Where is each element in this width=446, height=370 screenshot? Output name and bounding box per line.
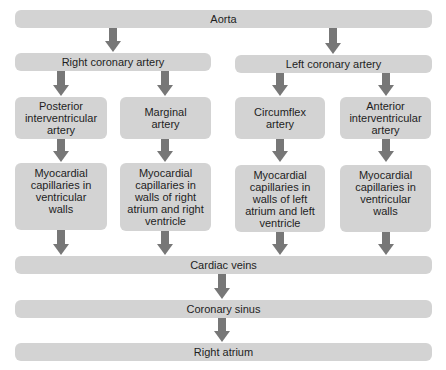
node-capillaries-ventricular-walls-left: Myocardial capillaries in ventricular wa…: [340, 165, 431, 232]
node-label: Circumflex artery: [254, 106, 306, 130]
node-right-coronary-artery: Right coronary artery: [15, 53, 211, 71]
arrow-down-icon: [158, 231, 172, 256]
arrow-down-icon: [379, 73, 393, 97]
arrow-down-icon: [273, 73, 287, 97]
node-coronary-sinus: Coronary sinus: [15, 300, 432, 318]
arrow-down-icon: [273, 139, 287, 163]
arrow-down-icon: [326, 28, 340, 55]
node-capillaries-left-atrium-ventricle: Myocardial capillaries in walls of left …: [235, 165, 325, 232]
arrow-down-icon: [158, 71, 172, 97]
arrow-down-icon: [106, 28, 120, 53]
node-marginal-artery: Marginal artery: [120, 97, 211, 139]
arrow-down-icon: [215, 318, 229, 343]
node-label: Anterior interventricular artery: [349, 100, 421, 136]
node-label: Myocardial capillaries in walls of right…: [127, 167, 203, 227]
arrow-down-icon: [379, 232, 393, 256]
node-capillaries-ventricular-walls-right: Myocardial capillaries in ventricular wa…: [15, 163, 107, 230]
arrow-down-icon: [54, 139, 68, 163]
node-aorta: Aorta: [15, 10, 432, 28]
node-label: Posterior interventricular artery: [25, 100, 97, 136]
node-cardiac-veins: Cardiac veins: [15, 256, 432, 274]
node-posterior-interventricular-artery: Posterior interventricular artery: [15, 97, 107, 139]
node-label: Left coronary artery: [286, 58, 381, 70]
node-circumflex-artery: Circumflex artery: [235, 97, 325, 139]
node-label: Myocardial capillaries in ventricular wa…: [31, 167, 92, 215]
node-label: Coronary sinus: [187, 303, 261, 315]
arrow-down-icon: [379, 139, 393, 163]
node-label: Right coronary artery: [62, 56, 165, 68]
arrow-down-icon: [54, 230, 68, 256]
node-label: Myocardial capillaries in ventricular wa…: [355, 169, 416, 217]
node-left-coronary-artery: Left coronary artery: [235, 55, 432, 73]
node-label: Right atrium: [194, 346, 253, 358]
arrow-down-icon: [215, 274, 229, 300]
node-label: Myocardial capillaries in walls of left …: [245, 169, 315, 229]
node-right-atrium: Right atrium: [15, 343, 432, 361]
arrow-down-icon: [273, 232, 287, 256]
node-anterior-interventricular-artery: Anterior interventricular artery: [340, 97, 431, 139]
arrow-down-icon: [158, 139, 172, 163]
node-label: Cardiac veins: [190, 259, 257, 271]
arrow-down-icon: [54, 71, 68, 97]
node-label: Marginal artery: [144, 106, 186, 130]
node-label: Aorta: [210, 13, 236, 25]
node-capillaries-right-atrium-ventricle: Myocardial capillaries in walls of right…: [120, 163, 211, 231]
